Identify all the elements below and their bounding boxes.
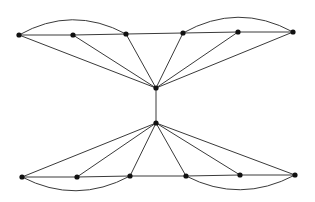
edge-t3-t4: [126, 33, 183, 34]
edge-b6-hub_bottom: [156, 123, 295, 175]
node-t2: [70, 32, 75, 37]
vertices: [16, 29, 297, 179]
edge-b5-hub_bottom: [156, 123, 240, 175]
graph-svg: [0, 0, 315, 202]
edge-t3-hub_top: [126, 34, 156, 88]
edge-b4-b5: [186, 175, 240, 176]
curved-edges: [19, 17, 295, 191]
node-t6: [290, 29, 295, 34]
node-t4: [180, 30, 185, 35]
edge-b2-b3: [77, 176, 130, 177]
straight-edges: [19, 32, 295, 177]
node-t1: [16, 32, 21, 37]
graph-diagram: [0, 0, 315, 202]
edge-t1-hub_top: [19, 35, 156, 88]
node-b1: [19, 174, 24, 179]
edge-b4-hub_bottom: [156, 123, 186, 176]
edge-t4-t5: [183, 32, 238, 33]
edge-t2-hub_top: [73, 35, 156, 88]
edge-t2-t3: [73, 34, 126, 35]
node-b3: [127, 173, 132, 178]
node-hub_top: [153, 85, 158, 90]
node-t3: [123, 31, 128, 36]
edge-t4-hub_top: [156, 33, 183, 88]
node-b2: [74, 174, 79, 179]
node-b6: [292, 172, 297, 177]
edge-b3-hub_bottom: [130, 123, 156, 176]
node-t5: [235, 29, 240, 34]
edge-t6-hub_top: [156, 32, 293, 88]
node-b5: [237, 172, 242, 177]
node-hub_bottom: [153, 120, 158, 125]
node-b4: [183, 173, 188, 178]
